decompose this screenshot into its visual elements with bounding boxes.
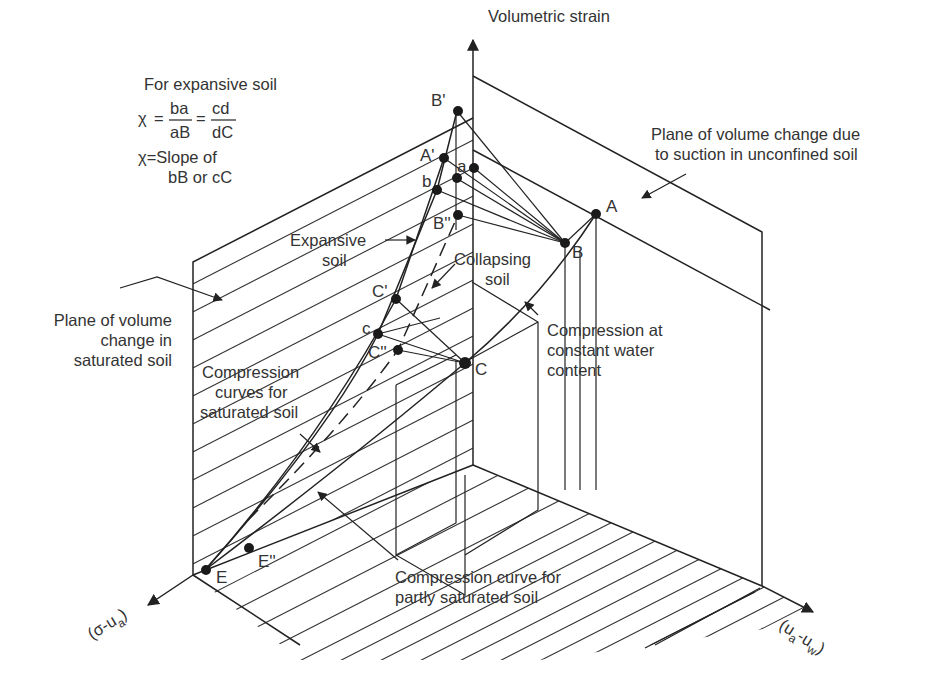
fraction-1-numerator: ba <box>170 99 189 117</box>
slope-definition-1: χ=Slope of <box>138 148 217 166</box>
label-B-prime: B' <box>431 91 446 110</box>
base-edge-left <box>193 465 473 575</box>
point-C <box>459 357 471 369</box>
partly-saturated-pointer <box>318 492 398 560</box>
point-a <box>469 163 479 173</box>
inner-box-front <box>396 385 465 595</box>
saturated-plane-pointer <box>120 277 222 300</box>
inner-box-right <box>465 282 538 555</box>
label-C: C <box>475 360 487 379</box>
point-B <box>560 238 570 248</box>
inner-box-back <box>396 360 456 555</box>
suction-plane-label-2: to suction in unconfined soil <box>655 145 858 163</box>
saturated-plane-label-1: Plane of volume <box>54 311 172 329</box>
label-E: E <box>216 568 227 587</box>
saturated-plane-label-2: change in <box>100 331 172 349</box>
equals-sign-1: = <box>154 109 164 127</box>
collapsing-soil-label-1: Collapsing <box>454 250 531 268</box>
point-B-dprime <box>453 210 463 220</box>
label-B-dprime: B'' <box>433 214 451 233</box>
collapsing-soil-label-2: soil <box>485 270 510 288</box>
slope-definition-2: bB or cC <box>168 168 232 186</box>
point-B-prime <box>453 106 463 116</box>
saturated-curves-label-2: curves for <box>215 383 288 401</box>
partly-saturated-label-2: partly saturated soil <box>395 588 538 606</box>
constant-water-label-2: constant water <box>547 341 655 359</box>
point-C-dprime <box>393 345 403 355</box>
point-b <box>432 185 442 195</box>
label-E-dprime: E'' <box>258 552 276 571</box>
point-E-dprime <box>244 543 254 553</box>
formula-heading: For expansive soil <box>144 75 277 93</box>
suction-plane-label-1: Plane of volume change due <box>651 125 860 143</box>
net-stress-axis-label: (σ-ua) <box>84 605 132 647</box>
label-C-prime: C' <box>372 282 388 301</box>
net-stress-axis-arrow <box>148 575 193 605</box>
label-a: a <box>457 157 467 176</box>
equals-sign-2: = <box>196 109 206 127</box>
expansive-soil-label-2: soil <box>322 251 347 269</box>
suction-axis-label: (ua-uw) <box>774 615 829 661</box>
constant-water-label-1: Compression at <box>547 321 663 339</box>
saturated-curves-label-3: saturated soil <box>200 403 298 421</box>
constant-water-label-3: content <box>547 361 602 379</box>
chi-symbol: χ <box>138 109 147 127</box>
partly-saturated-label-1: Compression curve for <box>395 568 561 586</box>
fraction-2-numerator: cd <box>212 99 229 117</box>
point-E <box>201 565 211 575</box>
vertical-axis-label-1: Volumetric strain <box>488 7 610 25</box>
suction-axis-arrow <box>762 586 813 612</box>
label-b: b <box>422 172 431 191</box>
soil-volume-change-diagram: B' A' a b B'' A B C' c C'' C E E'' Volum… <box>0 0 927 676</box>
fraction-1-denominator: aB <box>170 123 190 141</box>
expansive-soil-label-1: Expansive <box>290 231 366 249</box>
label-B: B <box>572 243 583 262</box>
saturated-plane-label-3: saturated soil <box>74 351 172 369</box>
point-A <box>591 209 601 219</box>
point-A-prime <box>439 153 449 163</box>
constant-water-pointer <box>525 302 538 315</box>
label-A: A <box>606 197 618 216</box>
saturated-curves-label-1: Compression <box>202 363 299 381</box>
svg-text:(σ-ua): (σ-ua) <box>84 605 132 647</box>
point-C-prime <box>391 294 401 304</box>
point-c <box>373 329 383 339</box>
inner-box-top <box>465 322 538 362</box>
label-C-dprime: C'' <box>368 343 387 362</box>
fraction-2-denominator: dC <box>212 123 233 141</box>
svg-text:(ua-uw): (ua-uw) <box>774 615 829 661</box>
label-c: c <box>362 319 371 338</box>
suction-plane-pointer <box>642 174 686 198</box>
label-A-prime: A' <box>420 146 435 165</box>
